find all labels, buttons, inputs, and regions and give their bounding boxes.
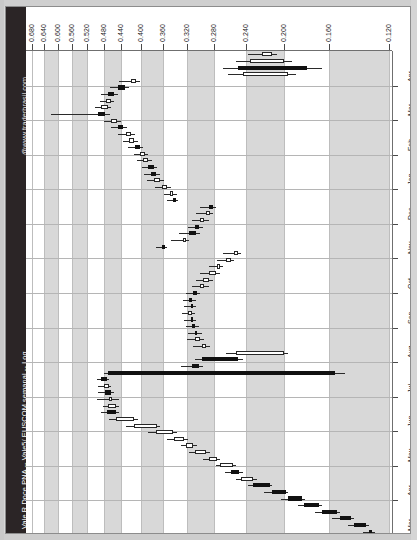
candle-body [209,271,216,275]
time-gridline [26,500,392,501]
value-tick-label: 0.640 [40,24,47,42]
time-tick [393,362,398,363]
value-tick-label: 0.440 [117,24,124,42]
candle-body [226,258,231,262]
candle-body [101,377,107,381]
value-tick [187,44,188,50]
time-tick [393,431,398,432]
candle-body [131,79,136,83]
time-tick-label: Jun [407,416,411,427]
candle-wick [209,266,224,267]
time-tick-label: Jan [407,174,411,185]
candle-body [140,152,145,156]
candle-body [369,530,372,534]
candle-body [272,490,286,494]
value-tick [72,44,73,50]
time-tick [393,258,398,259]
time-gridline [26,466,392,467]
candle-body [304,503,319,507]
candle-body [200,218,204,222]
candle-body [111,119,116,123]
candle-body [170,191,174,195]
value-tick [214,44,215,50]
candle-body [143,158,148,162]
time-tick [393,500,398,501]
candle-body [192,324,195,328]
candle-wick [196,213,213,214]
value-tick [121,44,122,50]
candle-wick [97,399,119,400]
candle-body [206,211,210,215]
candle-body [354,523,366,527]
time-tick-label: Nov [407,242,411,254]
candle-body [191,317,194,321]
candle-body [234,251,237,255]
candle-body [195,450,206,454]
candle-body [193,291,197,295]
time-tick [393,120,398,121]
candle-body [209,205,213,209]
candle-body [118,85,125,89]
candle-body [195,337,200,341]
time-gridline [26,120,392,121]
candle-body [202,344,206,348]
scan-border-bottom [0,533,417,540]
scan-border-right [411,0,417,540]
plot-area [26,51,392,534]
value-tick [44,44,45,50]
candle-body [108,92,114,96]
value-tick [104,44,105,50]
candle-body [162,245,165,249]
time-axis: MarAprMayJunJulAugSepOctNovDecJanFebMarA… [392,51,411,534]
candle-body [135,145,140,149]
candle-body [148,165,153,169]
candle-body [109,397,113,401]
candle-wick [223,253,241,254]
candle-body [189,298,192,302]
value-tick-label: 0.600 [54,24,61,42]
time-gridline [26,189,392,190]
value-tick-label: 0.480 [100,24,107,42]
time-tick-label: Feb [407,139,411,151]
title-strip: @www.traderbrasil.com Vale R Doce PNA --… [6,7,26,534]
time-tick-label: May [407,449,411,462]
candle-body [238,66,308,70]
candle-body [183,238,186,242]
candle-body [220,463,232,467]
value-tick [389,44,390,50]
value-tick [246,44,247,50]
candle-body [243,72,288,76]
candle-body [236,351,284,355]
time-gridline [26,362,392,363]
candle-body [241,477,253,481]
time-gridline [26,258,392,259]
value-tick [329,44,330,50]
time-gridline [26,155,392,156]
candle-body [162,185,168,189]
candle-body [134,424,157,428]
value-tick [58,44,59,50]
candle-body [106,99,110,103]
value-axis: 0.6800.6400.6000.5600.5200.4800.4400.400… [26,7,392,51]
time-tick [393,86,398,87]
time-tick-label: Sep [407,311,411,323]
value-tick-label: 0.360 [159,24,166,42]
value-tick-label: 0.280 [210,24,217,42]
candle-body [173,198,175,202]
value-tick-label: 0.320 [183,24,190,42]
candle-body [189,231,196,235]
value-tick [87,44,88,50]
value-tick-label: 0.240 [242,24,249,42]
candle-body [188,311,192,315]
value-tick [284,44,285,50]
candle-body [202,357,238,361]
value-tick [163,44,164,50]
candle-body [217,264,220,268]
time-tick-label: Jul [407,384,411,393]
candle-body [253,483,270,487]
time-tick-label: Apr [407,71,411,82]
candle-body [288,496,302,500]
candle-body [262,52,271,56]
candle-body [200,284,204,288]
time-tick-label: Oct [407,278,411,289]
